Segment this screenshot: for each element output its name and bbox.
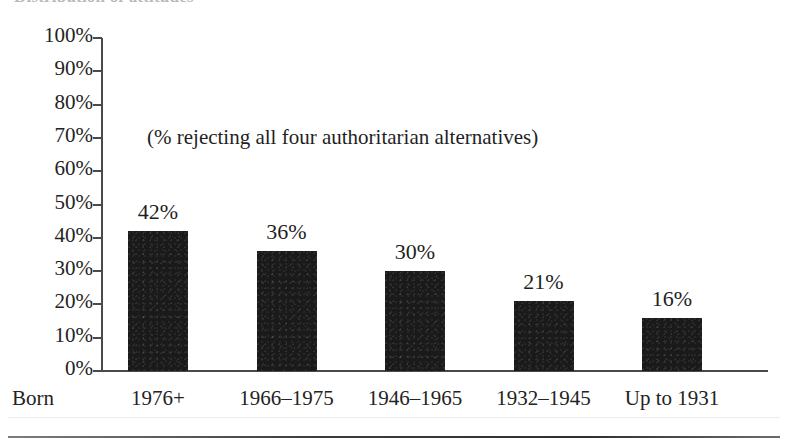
y-axis-tick-label: 50% — [55, 192, 94, 213]
chart-annotation: (% rejecting all four authoritarian alte… — [147, 124, 538, 150]
bar-value-label: 16% — [652, 288, 692, 310]
y-axis-tick-label: 80% — [55, 92, 94, 113]
bar-rect — [385, 271, 445, 371]
y-axis-tick-label: 20% — [55, 291, 94, 312]
x-axis-tick-label: 1976+ — [131, 386, 185, 410]
y-axis-tick-label: 0% — [65, 358, 93, 379]
y-axis-tick-mark — [93, 337, 102, 339]
y-axis-tick-mark — [93, 303, 102, 305]
y-axis-tick-mark — [93, 104, 102, 106]
bar-value-label: 30% — [395, 241, 435, 263]
y-axis-tick-mark — [93, 370, 102, 372]
x-axis-tick-label: Up to 1931 — [625, 386, 720, 410]
page-rule — [8, 436, 780, 438]
y-axis-tick-label: 10% — [55, 325, 94, 346]
bar-rect — [642, 318, 702, 371]
y-axis-tick-mark — [93, 137, 102, 139]
bar-chart: 100%90%80%70%60%50%40%30%20%10%0% (% rej… — [0, 0, 788, 446]
y-axis-tick-mark — [93, 237, 102, 239]
bar: 30% — [385, 271, 445, 371]
x-axis-tick-label: 1946–1965 — [368, 386, 463, 410]
y-axis-tick-label: 60% — [55, 158, 94, 179]
y-axis-tick-mark — [93, 70, 102, 72]
y-axis-tick-label: 100% — [44, 25, 93, 46]
x-axis-title: Born — [12, 386, 54, 410]
bar: 16% — [642, 318, 702, 371]
y-axis-tick-label: 40% — [55, 225, 94, 246]
x-axis-tick-label: 1932–1945 — [496, 386, 591, 410]
x-axis-tick-label: 1966–1975 — [239, 386, 334, 410]
bar: 21% — [514, 301, 574, 371]
bar: 36% — [257, 251, 317, 371]
bar-rect — [257, 251, 317, 371]
y-axis-tick-mark — [93, 204, 102, 206]
y-axis-tick-mark — [93, 170, 102, 172]
bar-rect — [514, 301, 574, 371]
bar: 42% — [128, 231, 188, 371]
bar-value-label: 42% — [138, 201, 178, 223]
y-axis-tick-mark — [93, 37, 102, 39]
bar-value-label: 36% — [266, 221, 306, 243]
bar-rect — [128, 231, 188, 371]
y-axis-tick-label: 90% — [55, 58, 94, 79]
page-rule-faint — [8, 417, 780, 418]
y-axis-tick-label: 30% — [55, 258, 94, 279]
bar-value-label: 21% — [523, 271, 563, 293]
y-axis-tick-mark — [93, 270, 102, 272]
y-axis-tick-label: 70% — [55, 125, 94, 146]
